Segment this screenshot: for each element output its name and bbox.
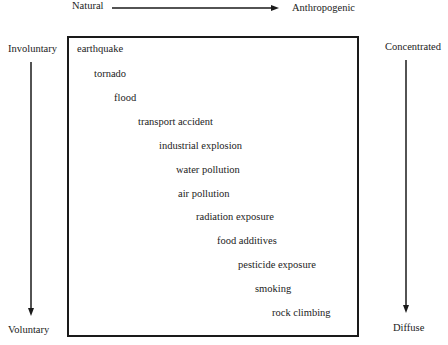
- right-down-arrow-icon: [403, 60, 409, 313]
- hazard-item: rock climbing: [272, 308, 331, 319]
- hazard-item: earthquake: [77, 44, 123, 55]
- hazard-item: smoking: [255, 284, 291, 295]
- hazard-item: flood: [114, 93, 136, 104]
- hazard-item: industrial explosion: [159, 141, 242, 152]
- hazard-item: transport accident: [138, 117, 213, 128]
- hazard-item: radiation exposure: [196, 212, 274, 223]
- left-down-arrow-icon: [28, 62, 34, 316]
- hazard-item: air pollution: [178, 189, 230, 200]
- hazard-box: [67, 36, 359, 337]
- horizontal-arrow-icon: [112, 5, 279, 11]
- hazard-item: tornado: [94, 69, 126, 80]
- hazard-item: water pollution: [176, 165, 240, 176]
- hazard-item: pesticide exposure: [238, 260, 316, 271]
- hazard-item: food additives: [217, 236, 277, 247]
